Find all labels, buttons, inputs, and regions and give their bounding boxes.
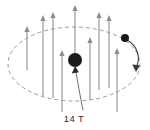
field-arrow-head [40,15,45,21]
magnetic-field-arrow [96,12,101,90]
field-label-leader [72,66,83,110]
nucleus-dot [68,53,82,67]
orbiting-particle-dot [121,34,129,42]
field-arrow-head [59,50,64,56]
leader-arrowhead [72,66,79,74]
field-arrow-head [24,26,29,32]
magnetic-field-arrow [59,50,64,112]
field-arrow-head [50,12,55,18]
field-arrow-head [106,15,111,21]
orbit-direction-arc [127,40,138,68]
field-strength-label: 14 T [64,113,84,124]
diagram-canvas: 14 T [0,0,150,130]
field-arrow-head [72,5,77,11]
magnetic-field-arrow [87,37,92,100]
field-arrow-head [114,48,119,54]
magnetic-field-arrow [24,26,29,70]
magnetic-field-arrow [72,5,77,58]
magnetic-field-arrow [40,15,45,96]
magnetic-field-arrow [106,15,111,88]
magnetic-field-arrow [114,48,119,112]
magnetic-field-diagram: 14 T [0,0,150,130]
magnetic-field-arrow [50,12,55,98]
orbit-direction-indicator [127,40,140,72]
field-arrow-head [87,37,92,43]
leader-line [76,70,84,110]
field-arrow-head [96,12,101,18]
